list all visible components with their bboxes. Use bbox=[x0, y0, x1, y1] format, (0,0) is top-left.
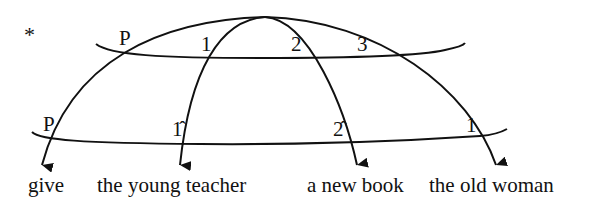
lower-label-1: 1 bbox=[466, 113, 477, 137]
argument-structure-diagram: * P 1 2 3 P 1̂ 2̂ 1 give the young teach… bbox=[0, 0, 591, 212]
word-a-new-book: a new book bbox=[307, 173, 404, 197]
lower-label-p: P bbox=[43, 112, 55, 136]
word-give: give bbox=[28, 173, 64, 197]
word-the-old-woman: the old woman bbox=[429, 173, 554, 197]
arc-young-teacher bbox=[180, 17, 265, 165]
word-the-young-teacher: the young teacher bbox=[97, 173, 246, 197]
upper-label-1: 1 bbox=[201, 32, 212, 56]
upper-label-2: 2 bbox=[291, 32, 302, 56]
lower-tier-line bbox=[32, 129, 507, 144]
upper-label-p: P bbox=[119, 26, 131, 50]
ungrammatical-marker: * bbox=[24, 22, 35, 47]
upper-tier-line bbox=[96, 43, 465, 58]
upper-label-3: 3 bbox=[357, 32, 368, 56]
